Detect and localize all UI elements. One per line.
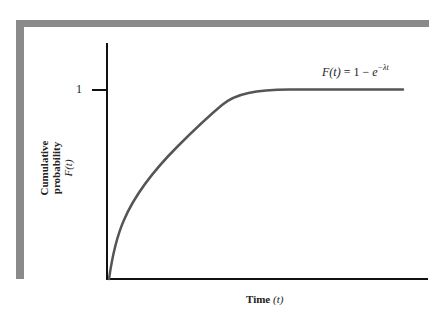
y-label-line1: Cumulative [38,141,50,196]
x-label-text: Time [246,293,273,305]
formula-lhs: F(t) [322,65,341,79]
x-axis-label: Time (t) [246,293,283,305]
y-label-line3: F(t) [62,141,74,196]
cdf-curve [109,90,403,280]
formula-annotation: F(t) = 1 − e−λt [322,64,389,80]
formula-exponent: −λt [378,63,389,72]
y-label-line2: probability [50,141,62,196]
y-axis-label: Cumulative probability F(t) [38,141,74,196]
formula-eq: = 1 − [341,65,373,79]
y-tick-label: 1 [76,82,82,97]
formula-base: e [372,65,377,79]
x-label-var: (t) [273,293,283,305]
